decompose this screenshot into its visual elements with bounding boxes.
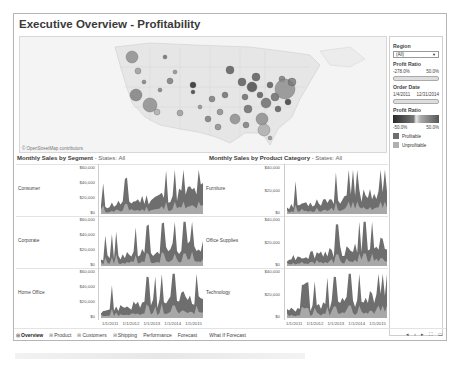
x-tick: 1/1/2015 xyxy=(185,321,202,326)
y-tick: $20,000 xyxy=(69,195,95,200)
area-chart-plot[interactable] xyxy=(284,164,388,216)
row-label: Consumer xyxy=(18,186,40,191)
y-tick: $0 xyxy=(254,314,280,319)
map-mark[interactable] xyxy=(238,78,246,86)
profit-ratio-min: -278.0% xyxy=(393,69,410,74)
area-chart-plot[interactable] xyxy=(98,164,204,216)
fullscreen-icon[interactable]: ⛶ xyxy=(429,331,433,338)
first-tab-icon[interactable]: ◂ xyxy=(406,331,409,338)
map-mark[interactable] xyxy=(158,88,162,92)
tab-forecast[interactable]: Forecast xyxy=(178,332,197,338)
map-mark[interactable] xyxy=(243,122,249,128)
title-text: Monthly Sales by Segment xyxy=(17,155,93,161)
row-label: Office Supplies xyxy=(206,238,238,243)
map-mark[interactable] xyxy=(130,89,142,101)
map-mark[interactable] xyxy=(275,106,281,112)
map-mark[interactable] xyxy=(217,109,223,115)
category-chart-title: Monthly Sales by Product Category - Stat… xyxy=(209,155,342,161)
tab-customers[interactable]: ⊞Customers xyxy=(77,332,106,338)
legend-label: Profitable xyxy=(402,134,421,139)
sales-map[interactable]: © OpenStreetMap contributors xyxy=(19,36,387,153)
dashboard-grid-icon: ⊞ xyxy=(113,332,117,338)
map-mark[interactable] xyxy=(198,105,202,109)
map-mark[interactable] xyxy=(167,78,173,84)
y-tick: $40,000 xyxy=(254,269,280,274)
map-mark[interactable] xyxy=(163,55,167,59)
map-mark[interactable] xyxy=(261,98,271,108)
map-mark[interactable] xyxy=(191,90,195,94)
map-mark[interactable] xyxy=(247,82,257,92)
blurred-caption xyxy=(15,353,305,359)
map-mark[interactable] xyxy=(226,66,234,74)
order-date-min: 1/4/2011 xyxy=(393,92,410,97)
y-tick: $60,000 xyxy=(69,217,95,222)
tab-what-if-forecast[interactable]: What If Forecast xyxy=(209,332,246,338)
region-value: (All) xyxy=(396,52,404,57)
order-date-max: 12/31/2014 xyxy=(416,92,439,97)
color-legend-min: -50.0% xyxy=(393,125,407,130)
map-mark[interactable] xyxy=(285,99,291,105)
y-tick: $20,000 xyxy=(254,240,280,245)
y-tick: $20,000 xyxy=(254,292,280,297)
profit-ratio-slider[interactable] xyxy=(393,76,439,81)
y-tick: $60,000 xyxy=(69,269,95,274)
tab-product[interactable]: ⊞Product xyxy=(49,332,71,338)
next-tab-icon[interactable]: ▸ xyxy=(421,331,424,338)
x-tick: 1/1/2013 xyxy=(143,321,160,326)
category-x-axis: 1/1/2011 1/1/2012 1/1/2013 1/1/2014 1/1/… xyxy=(286,321,386,326)
filters-panel: Region (All) ▼ Profit Ratio -278.0% 50.0… xyxy=(389,36,443,336)
x-tick: 1/1/2012 xyxy=(307,321,324,326)
map-mark[interactable] xyxy=(154,109,160,115)
map-mark[interactable] xyxy=(288,78,296,86)
region-dropdown[interactable]: (All) ▼ xyxy=(393,51,439,58)
map-mark[interactable] xyxy=(257,92,263,98)
y-tick: $20,000 xyxy=(254,188,280,193)
map-mark[interactable] xyxy=(205,116,211,122)
segment-chart-title: Monthly Sales by Segment - States: All xyxy=(17,155,125,161)
map-mark[interactable] xyxy=(242,94,248,100)
legend-unprofitable[interactable]: Unprofitable xyxy=(393,142,439,148)
chevron-down-icon: ▼ xyxy=(432,52,436,57)
map-mark[interactable] xyxy=(256,113,268,125)
tab-shipping[interactable]: ⊞Shipping xyxy=(113,332,137,338)
map-mark[interactable] xyxy=(267,82,273,88)
map-mark[interactable] xyxy=(268,136,272,140)
order-date-slider[interactable] xyxy=(393,99,439,104)
row-label: Technology xyxy=(206,290,230,295)
map-mark[interactable] xyxy=(230,114,240,124)
area-chart-plot[interactable] xyxy=(284,268,388,320)
map-mark[interactable] xyxy=(222,92,228,98)
presentation-icon[interactable]: ▭ xyxy=(438,331,443,338)
map-mark[interactable] xyxy=(252,73,260,81)
y-tick: $40,000 xyxy=(69,232,95,237)
map-mark[interactable] xyxy=(177,110,183,116)
legend-profitable[interactable]: Profitable xyxy=(393,133,439,139)
tab-performance[interactable]: Performance xyxy=(143,332,172,338)
map-mark[interactable] xyxy=(173,70,177,74)
map-mark[interactable] xyxy=(209,96,215,102)
map-mark[interactable] xyxy=(126,51,138,63)
tab-navigation: ◂ ‹ ▸ ⛶ ▭ xyxy=(406,331,443,338)
area-chart-plot[interactable] xyxy=(98,268,204,320)
row-label: Furniture xyxy=(206,186,225,191)
map-mark[interactable] xyxy=(142,80,146,84)
map-mark[interactable] xyxy=(135,68,141,74)
area-chart-plot[interactable] xyxy=(98,216,204,268)
tab-overview[interactable]: ⊞Overview xyxy=(16,332,43,338)
dashboard-grid-icon: ⊞ xyxy=(16,332,20,338)
subtitle-text: - States: All xyxy=(93,155,125,161)
map-canvas[interactable] xyxy=(20,37,387,153)
y-tick: $20,000 xyxy=(69,247,95,252)
tab-label: Shipping xyxy=(118,332,137,338)
map-mark[interactable] xyxy=(258,124,270,136)
dashboard-frame: Executive Overview - Profitability © Ope… xyxy=(13,13,447,341)
map-mark[interactable] xyxy=(190,82,196,88)
x-tick: 1/1/2013 xyxy=(327,321,344,326)
sales-area xyxy=(101,274,203,318)
area-chart-plot[interactable] xyxy=(284,216,388,268)
prev-tab-icon[interactable]: ‹ xyxy=(414,331,416,338)
unprofitable-swatch xyxy=(393,142,399,148)
y-tick: $0 xyxy=(69,314,95,319)
map-mark[interactable] xyxy=(244,105,252,113)
map-mark[interactable] xyxy=(215,124,221,130)
